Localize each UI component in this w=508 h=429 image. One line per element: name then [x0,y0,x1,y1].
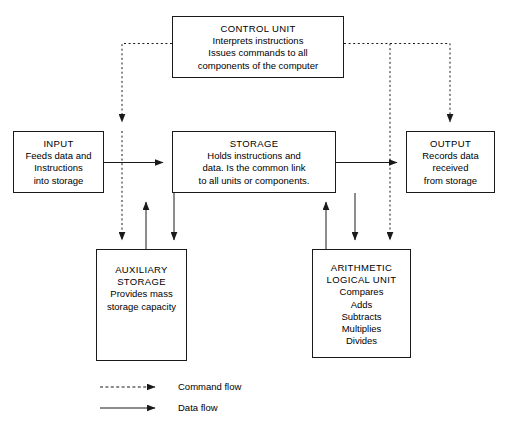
control-unit-line-2: Issues commands to all [176,47,340,59]
output-line-2: received [410,162,491,174]
output-box[interactable]: OUTPUT Records data received from storag… [406,131,495,193]
input-title: INPUT [17,138,100,150]
edge-control-to-output [344,44,450,123]
auxiliary-storage-line-2: storage capacity [100,301,183,313]
legend-sample-lines [100,387,155,408]
legend-command-flow-label: Command flow [178,381,241,392]
auxiliary-storage-box[interactable]: AUXILIARY STORAGE Provides mass storage … [96,249,187,361]
input-line-2: Instructions [17,162,100,174]
control-unit-line-3: components of the computer [176,60,340,72]
block-diagram: CONTROL UNIT Interprets instructions Iss… [0,0,508,429]
input-line-3: into storage [17,175,100,187]
legend-data-flow-label: Data flow [178,402,218,413]
auxiliary-storage-line-1: Provides mass [100,288,183,300]
arithmetic-logical-unit-title-line-2: LOGICAL UNIT [316,274,407,286]
arithmetic-logical-unit-op-2: Adds [316,299,407,311]
arithmetic-logical-unit-op-3: Subtracts [316,311,407,323]
input-box[interactable]: INPUT Feeds data and Instructions into s… [13,131,104,193]
edge-control-to-input [122,44,172,123]
auxiliary-storage-title-line-2: STORAGE [100,276,183,288]
storage-box[interactable]: STORAGE Holds instructions and data. Is … [172,131,336,193]
storage-line-2: data. Is the common link [176,162,332,174]
output-title: OUTPUT [410,138,491,150]
storage-line-3: to all units or components. [176,175,332,187]
auxiliary-storage-title-line-1: AUXILIARY [100,264,183,276]
output-line-1: Records data [410,150,491,162]
storage-line-1: Holds instructions and [176,150,332,162]
arithmetic-logical-unit-op-4: Multiplies [316,323,407,335]
input-line-1: Feeds data and [17,150,100,162]
output-line-3: from storage [410,175,491,187]
arithmetic-logical-unit-title-line-1: ARITHMETIC [316,262,407,274]
control-unit-line-1: Interprets instructions [176,35,340,47]
arithmetic-logical-unit-op-5: Divides [316,335,407,347]
arithmetic-logical-unit-op-1: Compares [316,286,407,298]
control-unit-box[interactable]: CONTROL UNIT Interprets instructions Iss… [172,16,344,78]
arithmetic-logical-unit-box[interactable]: ARITHMETIC LOGICAL UNIT Compares Adds Su… [312,249,411,358]
control-unit-title: CONTROL UNIT [176,23,340,35]
storage-title: STORAGE [176,138,332,150]
